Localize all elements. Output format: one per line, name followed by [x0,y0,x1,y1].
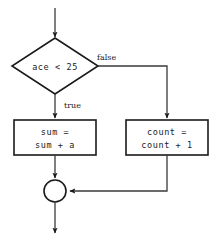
process-node-true-box [14,120,96,155]
flowchart-canvas: ace < 25 true false sum = sum + a count … [0,0,218,242]
edge-process-false-to-merge [70,155,167,191]
merge-node-circle [44,180,66,202]
edge-false-to-process [98,66,167,118]
flowchart-diagram: ace < 25 true false sum = sum + a count … [0,0,218,242]
process-node-false-line1: count = [147,127,187,137]
process-node-false-box [126,120,208,155]
edge-label-false: false [97,53,116,62]
process-node-true-line1: sum = [41,127,70,137]
process-node-true-line2: sum + a [35,140,75,150]
decision-node-label: ace < 25 [32,62,78,72]
process-node-false-line2: count + 1 [141,140,192,150]
edge-label-true: true [64,101,81,110]
